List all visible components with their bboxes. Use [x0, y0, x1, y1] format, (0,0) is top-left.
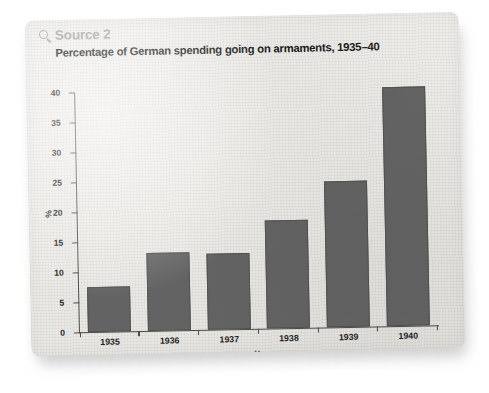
- x-axis-tick-label: 1939: [319, 331, 379, 342]
- bar-slot: [373, 86, 437, 326]
- source-header: Source 2: [39, 27, 111, 43]
- bar-1936: [146, 252, 191, 331]
- bar-1937: [206, 252, 250, 329]
- source-label: Source 2: [55, 27, 111, 43]
- paper-card: Source 2 Percentage of German spending g…: [25, 12, 466, 357]
- y-axis-tick-label: 5: [59, 298, 64, 308]
- chart-title: Percentage of German spending going on a…: [55, 39, 385, 61]
- bar-slot: [135, 91, 199, 331]
- x-axis-tick-label: 1935: [80, 336, 140, 347]
- y-axis-title: %: [43, 210, 53, 218]
- bar-slot: [75, 92, 139, 332]
- y-axis-tick-label: 20: [53, 208, 63, 218]
- bar-slot: [314, 87, 378, 327]
- y-axis-tick-label: 30: [52, 148, 62, 158]
- y-axis-tick-label: 40: [50, 88, 60, 98]
- x-axis-tick-labels: 193519361937193819391940: [80, 330, 438, 347]
- y-axis-tick-label: 35: [51, 118, 61, 128]
- bar-series: [75, 86, 438, 332]
- card-content: Source 2 Percentage of German spending g…: [25, 12, 466, 357]
- y-axis-tick-label: 0: [60, 328, 65, 338]
- bar-1939: [324, 180, 370, 327]
- magnifier-icon: [39, 29, 52, 42]
- bar-slot: [254, 89, 318, 329]
- x-axis-tick-label: 1937: [199, 334, 259, 345]
- bar-slot: [194, 90, 258, 330]
- y-axis-tick-label: 10: [54, 268, 64, 278]
- x-axis-tick-label: 1936: [140, 335, 200, 346]
- chart-plot-area: % 0510152025303540: [74, 86, 439, 333]
- y-axis-tick-label: 25: [52, 178, 62, 188]
- bar-1935: [87, 287, 131, 333]
- x-axis-tick-label: 1938: [259, 333, 319, 344]
- y-axis-tick-label: 15: [53, 238, 63, 248]
- bar-1940: [382, 86, 430, 326]
- x-axis-tick-label: 1940: [378, 330, 438, 341]
- bar-1938: [265, 220, 310, 328]
- scanned-page: Source 2 Percentage of German spending g…: [0, 0, 489, 393]
